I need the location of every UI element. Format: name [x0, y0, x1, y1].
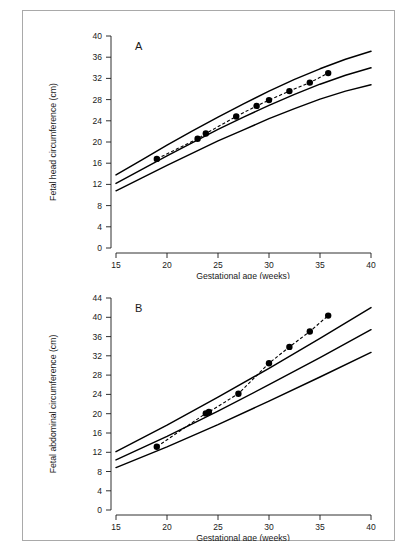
panel-a-ytick-40: 40 [93, 31, 103, 41]
panel-b-curves [116, 308, 371, 468]
panel-b-ytick-32: 32 [93, 351, 103, 361]
panel-a-xtick-30: 30 [264, 260, 274, 270]
panel-b-ytick-44: 44 [93, 293, 103, 303]
panel-b-letter: B [135, 302, 142, 314]
panel-b-y-tick-labels: 44 40 36 32 28 24 20 16 12 8 4 0 [93, 293, 103, 515]
panel-a-xtick-20: 20 [162, 260, 172, 270]
panel-a-ytick-20: 20 [93, 137, 103, 147]
panel-a-curves [116, 51, 371, 191]
panel-b-ytick-0: 0 [97, 505, 102, 515]
panel-a-ytick-24: 24 [93, 116, 103, 126]
panel-a-median-centile [116, 68, 371, 184]
panel-a-letter: A [135, 40, 143, 52]
panel-a-y-tick-labels: 40 36 32 28 24 20 16 12 8 4 0 [93, 31, 103, 253]
panel-a-ytick-0: 0 [97, 243, 102, 253]
panel-a-x-axis-title: Gestational age (weeks) [196, 271, 290, 279]
panel-b-ytick-4: 4 [97, 486, 102, 496]
panel-a-x-ticks [116, 253, 371, 258]
panel-a-y-axis-title: Fetal head circumference (cm) [48, 83, 58, 201]
panel-a-ytick-36: 36 [93, 52, 103, 62]
panel-a-ytick-12: 12 [93, 179, 103, 189]
panel-a-ytick-32: 32 [93, 73, 103, 83]
panel-b-xtick-35: 35 [315, 522, 325, 532]
panel-b-ytick-24: 24 [93, 389, 103, 399]
panel-b-x-tick-labels: 15 20 25 30 35 40 [111, 522, 376, 532]
panel-a-ytick-8: 8 [97, 201, 102, 211]
panel-a-lower-centile [116, 85, 371, 191]
panel-b-median-centile [116, 330, 371, 460]
chart-panel-b: 44 40 36 32 28 24 20 16 12 8 4 0 [23, 279, 396, 541]
panel-b-xtick-15: 15 [111, 522, 121, 532]
panel-b-x-ticks [116, 515, 371, 520]
panel-a-ytick-4: 4 [97, 222, 102, 232]
panel-b-measurement-line [157, 316, 328, 447]
figure-frame: 40 36 32 28 24 20 16 12 8 4 0 [22, 10, 395, 541]
panel-b-xtick-40: 40 [366, 522, 376, 532]
panel-a-x-tick-labels: 15 20 25 30 35 40 [111, 260, 376, 270]
panel-a-xtick-15: 15 [111, 260, 121, 270]
panel-a-ytick-28: 28 [93, 95, 103, 105]
panel-a-xtick-25: 25 [213, 260, 223, 270]
panel-a-ytick-16: 16 [93, 158, 103, 168]
panel-a-measurement-line [157, 73, 328, 159]
panel-a-xtick-40: 40 [366, 260, 376, 270]
panel-b-ytick-36: 36 [93, 332, 103, 342]
panel-a-svg: 40 36 32 28 24 20 16 12 8 4 0 [23, 17, 396, 279]
panel-b-xtick-25: 25 [213, 522, 223, 532]
panel-b-x-axis-title: Gestational age (weeks) [196, 533, 290, 541]
panel-a-xtick-35: 35 [315, 260, 325, 270]
panel-b-xtick-20: 20 [162, 522, 172, 532]
panel-b-ytick-28: 28 [93, 370, 103, 380]
panel-b-svg: 44 40 36 32 28 24 20 16 12 8 4 0 [23, 279, 396, 541]
panel-b-ytick-8: 8 [97, 467, 102, 477]
panel-b-lower-centile [116, 352, 371, 467]
panel-b-upper-centile [116, 308, 371, 452]
panel-b-ytick-16: 16 [93, 428, 103, 438]
panel-b-ytick-20: 20 [93, 409, 103, 419]
panel-b-y-axis-title: Fetal abdominal circumference (cm) [48, 335, 58, 474]
chart-panel-a: 40 36 32 28 24 20 16 12 8 4 0 [23, 17, 396, 279]
panel-b-xtick-30: 30 [264, 522, 274, 532]
panel-b-y-ticks [106, 298, 111, 510]
panel-b-ytick-12: 12 [93, 447, 103, 457]
panel-a-y-ticks [106, 36, 111, 248]
panel-b-ytick-40: 40 [93, 312, 103, 322]
